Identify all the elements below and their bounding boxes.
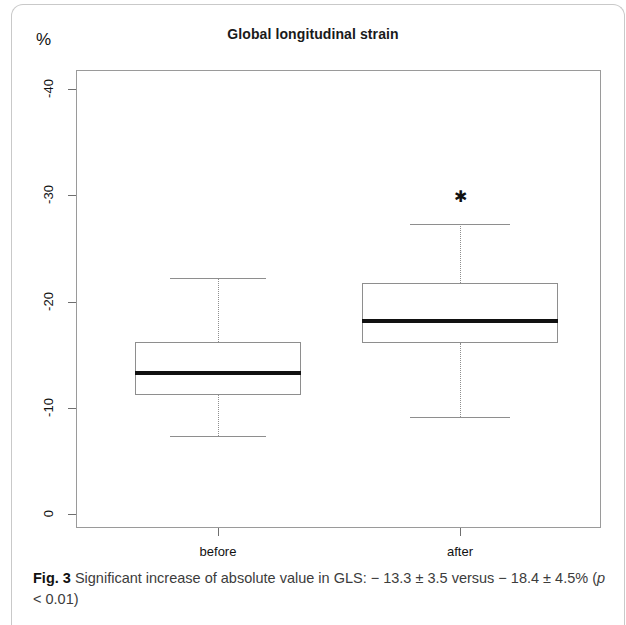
y-tick-mark — [68, 89, 76, 90]
x-tick-mark — [218, 528, 219, 536]
lower-whisker-line — [460, 343, 461, 417]
box-iqr — [362, 283, 558, 343]
y-tick-label: -10 — [41, 387, 56, 427]
box-iqr — [135, 342, 301, 395]
chart-title: Global longitudinal strain — [0, 26, 626, 42]
x-tick-label-before: before — [148, 544, 288, 559]
outlier-point: ✱ — [450, 189, 470, 205]
upper-whisker-line — [218, 278, 219, 342]
lower-whisker-line — [218, 395, 219, 436]
figure-number: Fig. 3 — [33, 570, 71, 586]
y-tick-mark — [68, 195, 76, 196]
y-tick-label: -20 — [41, 281, 56, 321]
x-tick-mark — [460, 528, 461, 536]
median-line — [135, 371, 301, 375]
caption-text-part1: Significant increase of absolute value i… — [75, 570, 597, 586]
figure-card: Global longitudinal strain % -40-30-20-1… — [0, 0, 626, 625]
upper-whisker-cap — [410, 224, 510, 225]
y-tick-mark — [68, 408, 76, 409]
y-tick-label: 0 — [41, 494, 56, 534]
upper-whisker-line — [460, 224, 461, 284]
boxplot-chart: Global longitudinal strain % -40-30-20-1… — [0, 0, 626, 570]
x-tick-label-after: after — [390, 544, 530, 559]
y-tick-mark — [68, 514, 76, 515]
lower-whisker-cap — [410, 417, 510, 418]
figure-caption: Fig. 3 Significant increase of absolute … — [33, 568, 609, 610]
caption-p-symbol: p — [597, 570, 605, 586]
y-tick-mark — [68, 302, 76, 303]
y-axis-unit-label: % — [36, 30, 51, 50]
upper-whisker-cap — [170, 278, 266, 279]
lower-whisker-cap — [170, 436, 266, 437]
median-line — [362, 319, 558, 323]
y-tick-label: -40 — [41, 69, 56, 109]
caption-text-part2: < 0.01) — [33, 591, 79, 607]
y-tick-label: -30 — [41, 175, 56, 215]
